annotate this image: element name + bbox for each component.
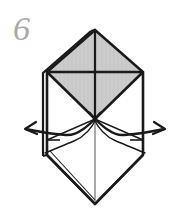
origami-illustration [0,0,176,212]
origami-figure: 6 [0,0,176,212]
right-arrow-head [153,122,165,134]
lower-left-diagonal [47,155,95,204]
lower-left-inner-line [50,151,95,200]
left-arrow-head [25,122,37,134]
lower-right-diagonal [95,155,143,204]
